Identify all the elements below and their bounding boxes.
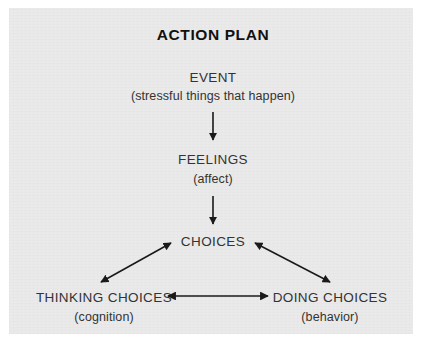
node-event-label: EVENT [0,71,426,85]
node-choices-label: CHOICES [0,235,426,249]
diagram-canvas: ACTION PLAN EVENT (stressful things that… [0,0,426,352]
node-feelings-label: FEELINGS [0,153,426,167]
node-thinking-choices-sublabel: (cognition) [14,311,194,324]
node-doing-choices-sublabel: (behavior) [248,311,412,324]
diagram-panel [9,8,413,334]
node-feelings-sublabel: (affect) [0,173,426,186]
node-event-sublabel: (stressful things that happen) [0,90,426,103]
page-title: ACTION PLAN [0,26,426,44]
node-thinking-choices-label: THINKING CHOICES [14,291,194,305]
node-doing-choices-label: DOING CHOICES [248,291,412,305]
